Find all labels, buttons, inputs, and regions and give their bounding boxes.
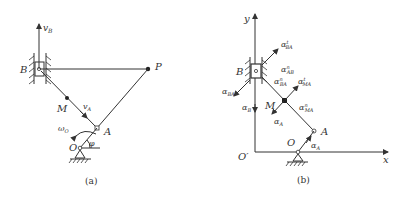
label-a2: A — [320, 126, 328, 137]
label-aba-n: αnBA — [274, 76, 287, 87]
pivot-support2 — [293, 154, 303, 161]
accel-aba-t-arrow — [262, 49, 278, 65]
label-o-prime: O′ — [238, 151, 249, 162]
label-b: B — [19, 64, 27, 75]
caption-a: (a) — [85, 176, 97, 186]
label-phi: φ — [89, 139, 95, 148]
line-pa — [97, 69, 148, 128]
label-va: vA — [83, 102, 92, 112]
label-o: O — [69, 142, 77, 153]
label-a: A — [103, 126, 111, 137]
figure-a: vB B P M vA A φ ωO O — [19, 23, 162, 186]
point-m — [65, 96, 69, 100]
label-y: y — [243, 13, 250, 24]
label-omega: ωO — [58, 124, 69, 134]
label-x: x — [383, 154, 389, 165]
label-p: P — [154, 61, 162, 72]
label-m2: M — [264, 100, 276, 111]
label-m: M — [56, 103, 68, 114]
accel-ama-t-arrow — [285, 86, 298, 100]
label-aa: αA — [311, 141, 320, 151]
label-aab-n: αnAB — [281, 64, 294, 75]
label-ab: αB — [242, 103, 251, 113]
slider-guide-b2 — [245, 57, 267, 84]
rod-ba — [41, 71, 97, 128]
label-aba-t: αtBA — [281, 39, 293, 50]
label-ama-n: αnMA — [299, 102, 314, 113]
caption-b: (b) — [297, 175, 310, 185]
label-o2: O — [287, 137, 295, 148]
velocity-va-arrow — [80, 111, 87, 118]
diagram-canvas: vB B P M vA A φ ωO O — [0, 0, 404, 198]
figure-b: y x O′ B αtBA αBA αB αnAB αnBA — [222, 13, 389, 185]
accel-aba-arrow — [234, 80, 250, 96]
label-aba: αBA — [222, 87, 235, 97]
label-aa-m: αA — [274, 117, 283, 127]
label-b2: B — [235, 66, 243, 77]
label-vb: vB — [43, 23, 53, 34]
label-ama-t: αtMA — [298, 76, 312, 87]
